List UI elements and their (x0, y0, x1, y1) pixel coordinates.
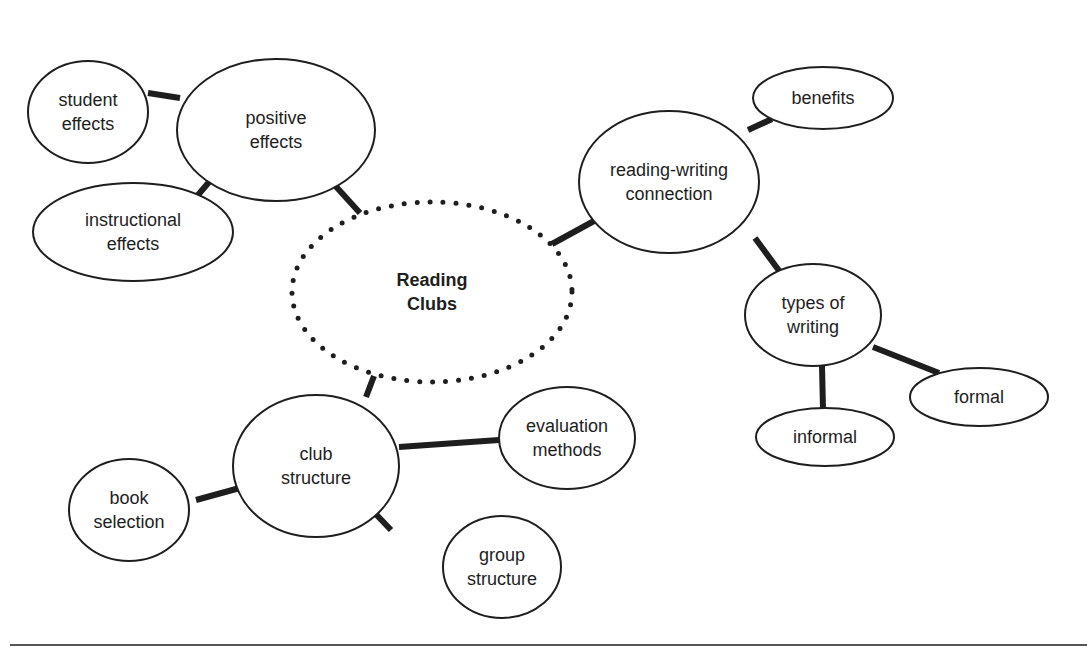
concept-map-canvas (0, 0, 1087, 655)
label-line: Clubs (396, 292, 467, 316)
node-reading-writing-connection: reading-writing connection (610, 158, 728, 206)
connector-positive-effects-to-student-effects (148, 93, 180, 98)
connector-types-of-writing-to-formal (873, 347, 939, 373)
label-line: instructional (85, 208, 181, 232)
connector-types-of-writing-to-informal (822, 366, 823, 409)
label-line: formal (954, 385, 1004, 409)
label-line: connection (610, 182, 728, 206)
label-line: evaluation (526, 414, 608, 438)
connector-reading-writing-connection-to-benefits (748, 119, 772, 130)
label-line: selection (93, 510, 164, 534)
node-club-structure: club structure (281, 442, 351, 490)
label-line: methods (526, 438, 608, 462)
connector-reading-clubs-to-reading-writing-connection (552, 221, 594, 244)
label-line: structure (281, 466, 351, 490)
node-group-structure: group structure (467, 543, 537, 591)
node-formal: formal (954, 385, 1004, 409)
label-line: benefits (791, 86, 854, 110)
label-line: writing (781, 315, 844, 339)
label-line: book (93, 486, 164, 510)
label-line: effects (245, 130, 306, 154)
label-line: informal (793, 425, 857, 449)
node-benefits: benefits (791, 86, 854, 110)
label-line: student (58, 88, 117, 112)
label-line: types of (781, 291, 844, 315)
concept-nodes (28, 59, 1048, 618)
node-types-of-writing: types of writing (781, 291, 844, 339)
node-reading-clubs: Reading Clubs (396, 268, 467, 316)
connector-reading-writing-connection-to-types-of-writing (755, 238, 780, 272)
node-student-effects: student effects (58, 88, 117, 136)
label-line: effects (85, 232, 181, 256)
label-line: group (467, 543, 537, 567)
label-line: effects (58, 112, 117, 136)
label-line: Reading (396, 268, 467, 292)
connector-club-structure-to-evaluation-methods (399, 440, 499, 447)
node-positive-effects: positive effects (245, 106, 306, 154)
label-line: club (281, 442, 351, 466)
node-evaluation-methods: evaluation methods (526, 414, 608, 462)
label-line: reading-writing (610, 158, 728, 182)
node-informal: informal (793, 425, 857, 449)
node-instructional-effects: instructional effects (85, 208, 181, 256)
node-book-selection: book selection (93, 486, 164, 534)
label-line: positive (245, 106, 306, 130)
connector-reading-clubs-to-club-structure (366, 376, 374, 397)
bottom-rule-divider (10, 644, 1087, 646)
label-line: structure (467, 567, 537, 591)
